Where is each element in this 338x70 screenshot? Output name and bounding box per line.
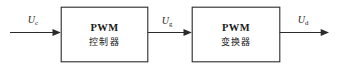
output-arrowhead <box>321 29 329 36</box>
gate-arrowhead <box>184 29 192 36</box>
pwm-converter-label-cjk: 变换器 <box>221 36 252 47</box>
input-signal-subscript: c <box>35 19 38 26</box>
pwm-converter-box <box>192 7 280 62</box>
gate-signal-subscript: g <box>169 20 173 27</box>
pwm-converter-label-latin: PWM <box>222 22 250 33</box>
pwm-controller-box <box>61 7 148 62</box>
output-wire-group <box>280 29 329 36</box>
pwm-controller-label-cjk: 控制器 <box>89 36 120 47</box>
input-signal-label: Uc <box>28 14 38 26</box>
pwm-block-diagram: PWM 控制器 PWM 变换器 Uc Ug Ud <box>0 0 338 70</box>
input-arrowhead <box>53 29 61 36</box>
gate-wire-group <box>148 29 192 36</box>
gate-signal-label: Ug <box>162 15 173 27</box>
output-signal-subscript: d <box>305 19 309 26</box>
pwm-controller-block: PWM 控制器 <box>61 7 148 62</box>
pwm-converter-block: PWM 变换器 <box>192 7 280 62</box>
pwm-controller-label-latin: PWM <box>90 22 118 33</box>
output-signal-label: Ud <box>298 14 309 26</box>
input-wire-group <box>10 29 61 36</box>
